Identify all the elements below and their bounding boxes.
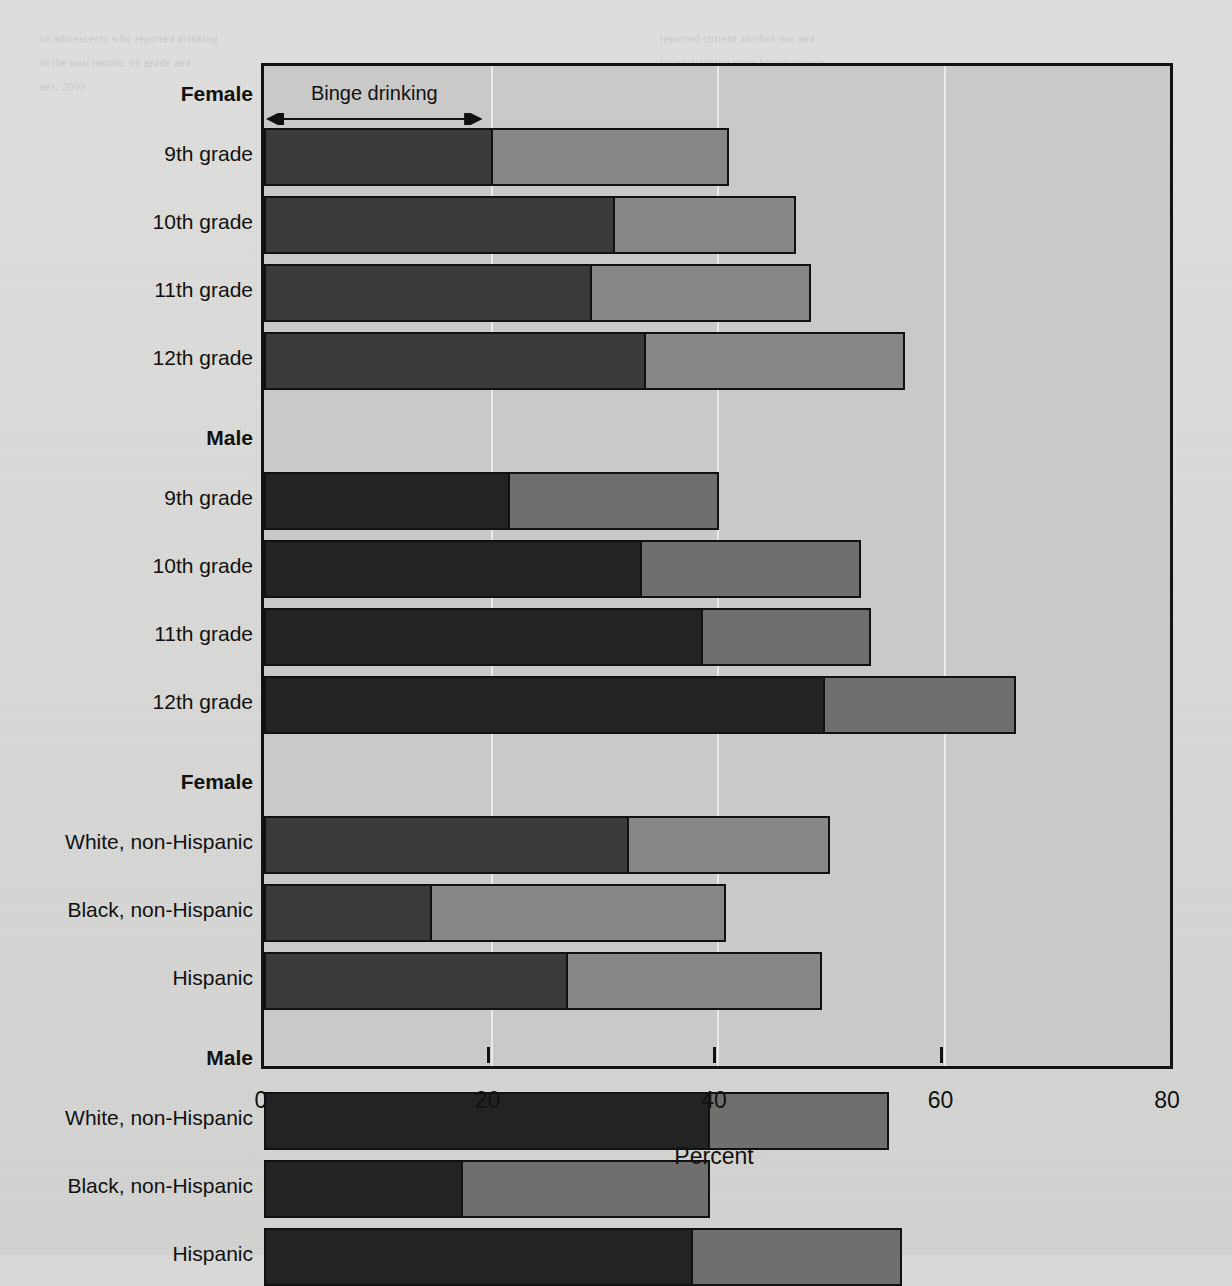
group-header-male-1: Male xyxy=(3,427,253,448)
bar-row xyxy=(264,540,1170,598)
bar-segment-current-alcohol-use xyxy=(566,952,823,1010)
y-label-9th-grade: 9th grade xyxy=(3,143,253,164)
group-header-male-3: Male xyxy=(3,1047,253,1068)
bar-segment-binge-drinking xyxy=(264,540,642,598)
bar-segment-binge-drinking xyxy=(264,128,493,186)
bar-row xyxy=(264,196,1170,254)
bar-segment-current-alcohol-use xyxy=(491,128,730,186)
bar-segment-binge-drinking xyxy=(264,264,592,322)
bar-segment-current-alcohol-use xyxy=(430,884,726,942)
bar-row xyxy=(264,128,1170,186)
x-axis-tick xyxy=(940,1047,943,1063)
bar-row xyxy=(264,608,1170,666)
bar-segment-binge-drinking xyxy=(264,608,703,666)
y-label-hispanic: Hispanic xyxy=(3,1243,253,1264)
y-label-white-non-hispanic: White, non-Hispanic xyxy=(3,831,253,852)
bar-row xyxy=(264,816,1170,874)
bar-segment-binge-drinking xyxy=(264,472,510,530)
binge-drinking-arrow-icon xyxy=(261,113,488,125)
bar-row xyxy=(264,332,1170,390)
y-label-10th-grade: 10th grade xyxy=(3,555,253,576)
y-label-11th-grade: 11th grade xyxy=(3,279,253,300)
y-label-12th-grade: 12th grade xyxy=(3,691,253,712)
y-label-white-non-hispanic: White, non-Hispanic xyxy=(3,1107,253,1128)
y-label-9th-grade: 9th grade xyxy=(3,487,253,508)
bar-segment-current-alcohol-use xyxy=(613,196,796,254)
x-axis-tick xyxy=(487,1047,490,1063)
bar-row xyxy=(264,952,1170,1010)
bar-segment-binge-drinking xyxy=(264,816,629,874)
plot-area xyxy=(261,63,1173,1069)
group-header-female-0: Female xyxy=(3,83,253,104)
bar-row xyxy=(264,264,1170,322)
x-axis-tick-label: 60 xyxy=(928,1089,954,1112)
y-label-10th-grade: 10th grade xyxy=(3,211,253,232)
group-header-female-2: Female xyxy=(3,771,253,792)
bar-segment-binge-drinking xyxy=(264,952,568,1010)
y-label-hispanic: Hispanic xyxy=(3,967,253,988)
bar-segment-current-alcohol-use xyxy=(590,264,811,322)
bar-segment-binge-drinking xyxy=(264,332,646,390)
bar-segment-binge-drinking xyxy=(264,676,825,734)
bar-segment-current-alcohol-use xyxy=(708,1092,889,1150)
bar-segment-current-alcohol-use xyxy=(508,472,720,530)
bar-segment-binge-drinking xyxy=(264,884,432,942)
x-axis-tick-label: 0 xyxy=(255,1089,268,1112)
y-label-11th-grade: 11th grade xyxy=(3,623,253,644)
bar-segment-current-alcohol-use xyxy=(627,816,831,874)
bar-segment-binge-drinking xyxy=(264,1228,693,1286)
bar-segment-binge-drinking xyxy=(264,196,615,254)
x-axis-tick-label: 80 xyxy=(1154,1089,1180,1112)
bar-row xyxy=(264,884,1170,942)
x-axis-tick-label: 20 xyxy=(475,1089,501,1112)
x-axis-tick xyxy=(713,1047,716,1063)
bar-segment-current-alcohol-use xyxy=(644,332,905,390)
y-label-black-non-hispanic: Black, non-Hispanic xyxy=(3,899,253,920)
bar-segment-current-alcohol-use xyxy=(691,1228,901,1286)
bar-segment-current-alcohol-use xyxy=(823,676,1016,734)
y-label-12th-grade: 12th grade xyxy=(3,347,253,368)
y-label-black-non-hispanic: Black, non-Hispanic xyxy=(3,1175,253,1196)
bar-row xyxy=(264,1228,1170,1286)
bar-segment-current-alcohol-use xyxy=(640,540,861,598)
x-axis-tick-label: 40 xyxy=(701,1089,727,1112)
bar-row xyxy=(264,676,1170,734)
bar-row xyxy=(264,472,1170,530)
x-axis-title: Percent xyxy=(261,1143,1167,1170)
bar-segment-current-alcohol-use xyxy=(701,608,871,666)
binge-drinking-annotation-label: Binge drinking xyxy=(311,83,438,103)
